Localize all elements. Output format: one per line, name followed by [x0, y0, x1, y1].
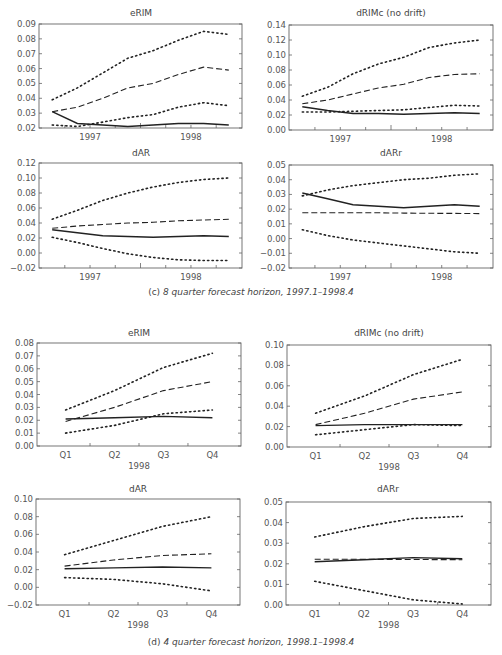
y-tick-label: 0.03 [15, 402, 34, 412]
series-lower-band [316, 425, 463, 435]
series-lower-band [315, 581, 463, 604]
y-tick-label: 0.00 [265, 442, 284, 452]
y-tick-label: 0.04 [17, 93, 36, 103]
y-tick-label: 0.02 [17, 233, 36, 243]
plot-area: 0.000.010.020.030.040.05Q1Q2Q3Q41998 [251, 480, 502, 630]
y-tick-label: 0.02 [267, 110, 286, 120]
y-tick-label: 0.05 [264, 497, 283, 507]
y-tick-label: 0.10 [17, 173, 36, 183]
x-tick-label: Q3 [157, 450, 169, 460]
x-axis-label: 1998 [128, 461, 150, 471]
chart-d-dAR: dAR −0.020.000.020.040.060.080.10Q1Q2Q3Q… [0, 480, 251, 630]
chart-d-dARr: dARr 0.000.010.020.030.040.05Q1Q2Q3Q4199… [251, 480, 502, 630]
y-tick-label: 0.08 [17, 188, 36, 198]
x-tick-label: 1997 [79, 132, 101, 142]
y-tick-label: 0.06 [14, 529, 33, 539]
x-tick-label: 1997 [329, 272, 351, 282]
series-upper-band [315, 516, 463, 537]
x-tick-label: Q3 [407, 609, 419, 619]
x-tick-label: Q2 [107, 609, 119, 619]
plot-frame [286, 502, 491, 605]
y-tick-label: 0.12 [17, 158, 36, 168]
series-actual [52, 230, 229, 238]
y-tick-label: 0.02 [15, 415, 34, 425]
x-axis-label: 1998 [378, 462, 400, 472]
y-tick-label: 0.14 [267, 20, 286, 30]
y-tick-label: 0.01 [267, 219, 286, 229]
series-upper-band [302, 40, 479, 96]
plot-frame [37, 343, 241, 446]
series-actual [302, 107, 479, 115]
x-tick-label: Q3 [407, 451, 419, 461]
plot-area: 0.020.030.040.050.060.070.080.0919971998 [0, 0, 251, 155]
series-actual [66, 416, 213, 419]
y-tick-label: 0.02 [264, 559, 283, 569]
y-tick-label: 0.04 [17, 218, 36, 228]
x-axis-label: 1998 [127, 620, 149, 630]
plot-area: −0.020.000.020.040.060.080.10Q1Q2Q3Q4199… [0, 480, 251, 630]
y-tick-label: 0.10 [14, 494, 33, 504]
y-tick-label: 0.09 [17, 19, 36, 29]
series-upper-band [316, 359, 463, 413]
caption-c: (c) 8 quarter forecast horizon, 1997.1–1… [0, 287, 502, 297]
y-tick-label: 0.08 [14, 512, 33, 522]
y-tick-label: 0.12 [267, 35, 286, 45]
y-tick-label: 0.04 [15, 390, 34, 400]
x-tick-label: Q4 [456, 609, 468, 619]
y-tick-label: −0.02 [7, 600, 33, 610]
plot-area: 0.000.020.040.060.080.100.120.1419971998 [251, 0, 502, 155]
y-tick-label: 0.08 [265, 360, 284, 370]
y-tick-label: 0.00 [15, 441, 34, 451]
y-tick-label: 0.04 [14, 547, 33, 557]
y-tick-label: 0.03 [264, 538, 283, 548]
y-tick-label: 0.04 [264, 518, 283, 528]
caption-d: (d) 4 quarter forecast horizon, 1998.1–1… [0, 637, 502, 647]
chart-d-eRIM: eRIM 0.000.010.020.030.040.050.060.070.0… [0, 325, 251, 475]
y-tick-label: −0.02 [10, 263, 36, 273]
y-tick-label: 0.00 [17, 248, 36, 258]
y-tick-label: 0.07 [15, 351, 34, 361]
x-axis-label: 1998 [378, 620, 400, 630]
x-tick-label: Q1 [59, 609, 71, 619]
x-tick-label: 1998 [431, 272, 453, 282]
y-tick-label: 0.06 [265, 381, 284, 391]
series-upper-band [52, 31, 229, 99]
series-lower-band [302, 230, 479, 254]
y-tick-label: 0.05 [15, 377, 34, 387]
y-tick-label: 0.06 [15, 364, 34, 374]
series-lower-band [66, 410, 213, 433]
y-tick-label: 0.05 [17, 78, 36, 88]
y-tick-label: 0.02 [14, 565, 33, 575]
chart-c-dARr: dARr −0.02−0.010.000.010.020.030.040.051… [251, 145, 502, 305]
y-tick-label: 0.08 [15, 338, 34, 348]
series-forecast [302, 74, 479, 104]
series-forecast [52, 219, 229, 228]
x-tick-label: Q1 [310, 451, 322, 461]
y-tick-label: 0.05 [267, 160, 286, 170]
y-tick-label: 0.03 [17, 108, 36, 118]
x-tick-label: Q2 [108, 450, 120, 460]
y-tick-label: 0.02 [265, 422, 284, 432]
series-actual [65, 567, 212, 569]
x-tick-label: 1998 [180, 132, 202, 142]
y-tick-label: 0.07 [17, 49, 36, 59]
y-tick-label: 0.00 [264, 600, 283, 610]
series-forecast [302, 213, 479, 214]
series-forecast [316, 392, 463, 425]
x-tick-label: Q1 [60, 450, 72, 460]
chart-c-dAR: dAR −0.020.000.020.040.060.080.100.12199… [0, 145, 251, 305]
x-tick-label: Q2 [358, 609, 370, 619]
chart-d-dRIMc: dRIMc (no drift) 0.000.020.040.060.080.1… [251, 325, 502, 475]
series-forecast [65, 554, 212, 566]
plot-frame [39, 163, 242, 268]
series-upper-band [66, 353, 213, 410]
y-tick-label: 0.06 [267, 80, 286, 90]
y-tick-label: 0.10 [265, 340, 284, 350]
plot-area: −0.02−0.010.000.010.020.030.040.05199719… [251, 145, 502, 305]
y-tick-label: 0.00 [267, 234, 286, 244]
plot-area: 0.000.010.020.030.040.050.060.070.08Q1Q2… [0, 325, 251, 475]
plot-area: −0.020.000.020.040.060.080.100.121997199… [0, 145, 251, 305]
y-tick-label: 0.10 [267, 50, 286, 60]
y-tick-label: 0.04 [267, 175, 286, 185]
x-tick-label: 1998 [180, 272, 202, 282]
